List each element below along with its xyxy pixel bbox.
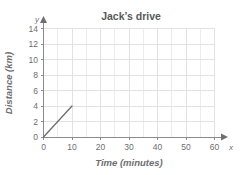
y-tick-labels: 14 12 10 8 6 4 2 0 xyxy=(29,24,39,143)
x-tick-label: 30 xyxy=(124,142,134,152)
y-tick-label: 0 xyxy=(33,132,38,142)
y-tick-label: 4 xyxy=(33,101,38,111)
y-axis-arrow-icon xyxy=(40,16,47,23)
y-tick-label: 10 xyxy=(29,55,39,65)
y-tick-label: 12 xyxy=(29,39,39,49)
line-chart: 14 12 10 8 6 4 2 0 0 10 20 30 40 50 60 y… xyxy=(0,0,240,175)
x-tick-label: 50 xyxy=(181,142,191,152)
y-tick-label: 14 xyxy=(29,24,39,34)
chart-container: 14 12 10 8 6 4 2 0 0 10 20 30 40 50 60 y… xyxy=(0,0,240,175)
x-axis-arrow-icon xyxy=(221,134,228,141)
x-tick-label: 60 xyxy=(210,142,220,152)
x-tick-label: 40 xyxy=(153,142,163,152)
x-tick-label: 10 xyxy=(67,142,77,152)
x-tick-labels: 0 10 20 30 40 50 60 xyxy=(41,142,219,152)
x-axis-letter: x xyxy=(228,143,234,152)
y-tick-label: 2 xyxy=(33,117,38,127)
x-axis-title: Time (minutes) xyxy=(95,157,162,168)
x-tick-label: 20 xyxy=(96,142,106,152)
x-tick-label: 0 xyxy=(41,142,46,152)
y-tick-label: 8 xyxy=(33,70,38,80)
chart-title: Jack’s drive xyxy=(101,10,161,22)
y-axis-title: Distance (km) xyxy=(3,52,14,114)
y-tick-label: 6 xyxy=(33,86,38,96)
y-axis-letter: y xyxy=(34,15,40,24)
